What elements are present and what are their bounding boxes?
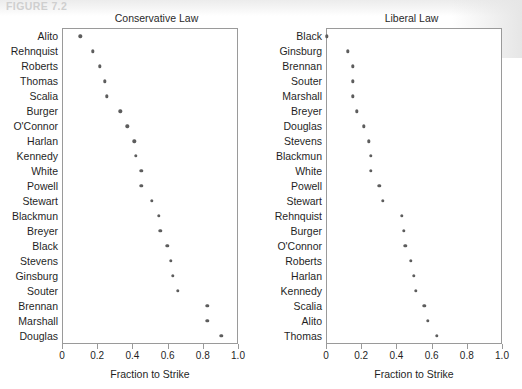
data-point — [126, 124, 129, 127]
x-tick-label-1-0: 1.0 — [231, 350, 245, 361]
x-axis-ticks-liberal — [326, 344, 502, 349]
y-axis-label: Blackmun — [12, 211, 58, 222]
x-axis-tick — [62, 344, 63, 349]
y-axis-label: Black — [296, 30, 322, 41]
y-axis-label: Thomas — [284, 331, 322, 342]
y-axis-label: Harlan — [291, 271, 322, 282]
y-axis-label: Stevens — [284, 136, 322, 147]
data-point — [206, 304, 209, 307]
data-point — [133, 139, 136, 142]
data-point — [409, 259, 412, 262]
y-axis-label: Roberts — [285, 256, 322, 267]
y-axis-label: Kennedy — [17, 151, 58, 162]
y-axis-label: Roberts — [21, 60, 58, 71]
data-point — [134, 154, 137, 157]
data-point — [176, 289, 179, 292]
y-axis-label: Powell — [27, 181, 58, 192]
x-tick-label-0-6: 0.6 — [425, 350, 439, 361]
y-axis-label: Breyer — [291, 106, 322, 117]
data-point — [369, 169, 372, 172]
y-axis-label: Souter — [27, 286, 58, 297]
x-axis-tick-labels-liberal: 0 0.2 0.4 0.6 0.8 1.0 — [326, 350, 502, 364]
x-axis-title-conservative: Fraction to Strike — [62, 368, 238, 380]
y-axis-labels-conservative: AlitoRehnquistRobertsThomasScaliaBurgerO… — [0, 28, 58, 344]
data-point — [355, 110, 358, 113]
x-tick-label-0-2: 0.2 — [90, 350, 104, 361]
y-axis-label: Black — [32, 241, 58, 252]
y-axis-label: Souter — [291, 75, 322, 86]
data-point — [150, 199, 153, 202]
data-point — [414, 289, 417, 292]
data-point — [105, 95, 108, 98]
data-point — [351, 80, 354, 83]
data-point — [157, 214, 160, 217]
y-axis-label: Stewart — [286, 196, 322, 207]
y-axis-label: Scalia — [29, 90, 58, 101]
y-axis-label: Rehnquist — [11, 45, 58, 56]
data-point — [169, 259, 172, 262]
y-axis-label: Marshall — [282, 90, 322, 101]
y-axis-label: Alito — [302, 316, 322, 327]
y-axis-label: Ginsburg — [15, 271, 58, 282]
x-tick-label-0: 0 — [323, 350, 329, 361]
plot-frame-liberal — [326, 28, 502, 344]
y-axis-label: Douglas — [283, 121, 322, 132]
x-tick-label-0-8: 0.8 — [196, 350, 210, 361]
y-axis-label: O'Connor — [277, 241, 322, 252]
data-point — [159, 229, 162, 232]
y-axis-label: Ginsburg — [279, 45, 322, 56]
data-point — [400, 214, 403, 217]
data-point — [423, 304, 426, 307]
y-axis-label: Rehnquist — [275, 211, 322, 222]
x-tick-label-0-4: 0.4 — [389, 350, 403, 361]
x-axis-tick — [396, 344, 397, 349]
y-axis-label: Burger — [290, 226, 322, 237]
plot-frame-conservative — [62, 28, 238, 344]
x-axis-tick — [361, 344, 362, 349]
data-point — [79, 35, 82, 38]
x-tick-label-1-0: 1.0 — [495, 350, 509, 361]
data-point — [206, 319, 209, 322]
data-point — [325, 35, 328, 38]
data-point — [103, 80, 106, 83]
x-axis-tick — [238, 344, 239, 349]
data-point — [381, 199, 384, 202]
y-axis-label: Harlan — [27, 136, 58, 147]
y-axis-label: O'Connor — [13, 121, 58, 132]
y-axis-label: White — [295, 166, 322, 177]
y-axis-label: Breyer — [27, 226, 58, 237]
y-axis-labels-liberal: BlackGinsburgBrennanSouterMarshallBreyer… — [261, 28, 322, 344]
y-axis-label: Stevens — [20, 256, 58, 267]
data-point — [220, 334, 223, 337]
x-axis-tick — [432, 344, 433, 349]
x-axis-tick — [132, 344, 133, 349]
data-point — [367, 139, 370, 142]
y-axis-label: Burger — [26, 106, 58, 117]
data-point — [362, 124, 365, 127]
data-point — [140, 169, 143, 172]
data-point — [91, 50, 94, 53]
x-tick-label-0-6: 0.6 — [161, 350, 175, 361]
panel-conservative-law: Conservative Law AlitoRehnquistRobertsTh… — [0, 0, 261, 389]
x-tick-label-0-8: 0.8 — [460, 350, 474, 361]
x-axis-tick — [203, 344, 204, 349]
plot-area-conservative — [63, 29, 237, 343]
y-axis-label: Scalia — [293, 301, 322, 312]
y-axis-label: Brennan — [18, 301, 58, 312]
x-axis-tick — [502, 344, 503, 349]
x-axis-ticks-conservative — [62, 344, 238, 349]
data-point — [171, 274, 174, 277]
panel-title-conservative: Conservative Law — [26, 12, 287, 24]
data-point — [140, 184, 143, 187]
data-point — [404, 244, 407, 247]
data-point — [351, 95, 354, 98]
data-point — [369, 154, 372, 157]
data-point — [98, 65, 101, 68]
y-axis-label: Douglas — [19, 331, 58, 342]
x-axis-tick — [326, 344, 327, 349]
x-axis-title-liberal: Fraction to Strike — [326, 368, 502, 380]
data-point — [435, 334, 438, 337]
y-axis-label: Stewart — [22, 196, 58, 207]
data-point — [351, 65, 354, 68]
y-axis-label: Kennedy — [281, 286, 322, 297]
